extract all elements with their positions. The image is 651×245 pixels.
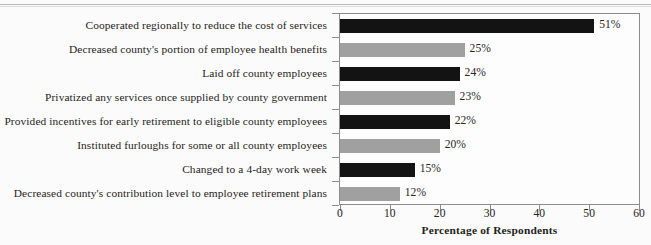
bar-value-label: 25% [470,42,491,56]
x-axis-tick-label: 50 [569,207,609,220]
page-top-rule-secondary [0,6,651,7]
x-axis-tick-label: 40 [519,207,559,220]
y-axis-tick [332,205,339,206]
bar-chart-figure: Cooperated regionally to reduce the cost… [0,0,651,245]
y-axis-tick [332,13,339,14]
page-top-rule [0,4,651,5]
bar-value-label: 12% [405,186,426,200]
bar [340,67,460,81]
y-axis-tick [332,157,339,158]
bar [340,115,450,129]
category-label: Decreased county's contribution level to… [0,187,327,199]
category-label: Instituted furloughs for some or all cou… [0,139,327,151]
category-axis-labels: Cooperated regionally to reduce the cost… [0,13,333,205]
bar-value-label: 23% [460,90,481,104]
bar-value-label: 22% [455,114,476,128]
bar [340,91,455,105]
x-axis-tick-label: 20 [420,207,460,220]
bar [340,187,400,201]
x-axis-tick-label: 10 [370,207,410,220]
y-axis-tick [332,109,339,110]
x-axis-tick-label: 60 [619,207,651,220]
y-axis-tick [332,37,339,38]
bar-value-label: 15% [420,162,441,176]
x-axis-tick-label: 30 [470,207,510,220]
bar [340,139,440,153]
category-label: Privatized any services once supplied by… [0,91,327,103]
x-axis-title: Percentage of Respondents [339,224,640,236]
y-axis-tick [332,181,339,182]
bar [340,19,594,33]
category-label: Changed to a 4-day work week [0,163,327,175]
category-label: Laid off county employees [0,67,327,79]
bar [340,43,465,57]
bar [340,163,415,177]
category-label: Cooperated regionally to reduce the cost… [0,19,327,31]
bar-value-label: 24% [465,66,486,80]
category-label: Provided incentives for early retirement… [0,115,327,127]
y-axis-tick [332,85,339,86]
y-axis-tick [332,133,339,134]
category-label: Decreased county's portion of employee h… [0,43,327,55]
y-axis-tick [332,61,339,62]
x-axis-tick-label: 0 [320,207,360,220]
bar-value-label: 20% [445,138,466,152]
bar-value-label: 51% [599,18,620,32]
